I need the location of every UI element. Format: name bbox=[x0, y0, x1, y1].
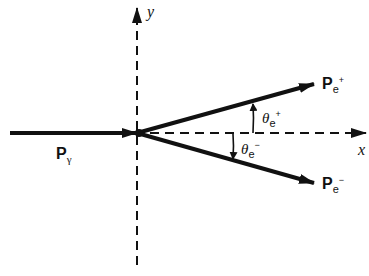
positron-angle-arrow bbox=[253, 104, 254, 133]
photon-momentum-label: Pγ bbox=[56, 146, 72, 165]
vertex-point bbox=[135, 129, 143, 137]
electron-angle-label: θe− bbox=[241, 141, 260, 160]
positron-angle-superscript: + bbox=[276, 109, 281, 119]
photon-momentum-subscript: γ bbox=[67, 153, 72, 165]
electron-momentum-label: Pe− bbox=[322, 176, 344, 195]
positron-momentum-symbol: P bbox=[322, 75, 333, 92]
electron-momentum-arrow bbox=[137, 133, 314, 183]
x-axis-label: x bbox=[358, 142, 365, 158]
electron-momentum-superscript: − bbox=[339, 175, 344, 185]
y-axis-label: y bbox=[147, 4, 154, 20]
electron-angle-arrow bbox=[233, 134, 234, 159]
positron-momentum-label: Pe+ bbox=[322, 76, 344, 95]
electron-momentum-symbol: P bbox=[322, 175, 333, 192]
photon-momentum-symbol: P bbox=[56, 145, 67, 162]
positron-momentum-arrow bbox=[137, 84, 314, 133]
electron-angle-superscript: − bbox=[255, 140, 260, 150]
positron-momentum-superscript: + bbox=[339, 75, 344, 85]
pair-production-diagram bbox=[0, 0, 369, 276]
positron-angle-label: θe+ bbox=[262, 110, 281, 129]
